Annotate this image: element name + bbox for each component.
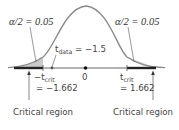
alpha-left-label: α/2 = 0.05 [9,17,53,28]
tdata-label: tdata = −1.5 [55,45,106,55]
neg-tcrit-symbol: −t [34,72,45,82]
tcrit-value: = 1.662 [120,84,155,93]
zero-label: 0 [82,73,87,82]
alpha-left-text: α/2 = 0.05 [9,16,53,27]
critical-region-left-label: Critical region [13,108,73,117]
tdata-value: = −1.5 [72,44,106,54]
critical-left-arrowhead [27,71,31,76]
alpha-right-label: α/2 = 0.05 [115,17,159,28]
tdata-point [51,67,54,70]
tcrit-subscript: crit [123,76,133,83]
tcrit-label: tcrit [120,73,133,83]
critical-right-arrowhead [151,71,155,76]
alpha-left-leader [30,27,36,62]
tdata-leader [52,55,56,67]
tdata-subscript: data [58,48,72,55]
neg-tcrit-subscript: crit [45,76,55,83]
neg-tcrit-label: −tcrit [34,73,55,83]
alpha-right-leader [128,27,134,62]
zero-point [84,66,88,70]
critical-region-right-label: Critical region [113,108,173,117]
neg-tcrit-value: = −1.662 [36,84,78,93]
alpha-right-text: α/2 = 0.05 [115,16,159,27]
